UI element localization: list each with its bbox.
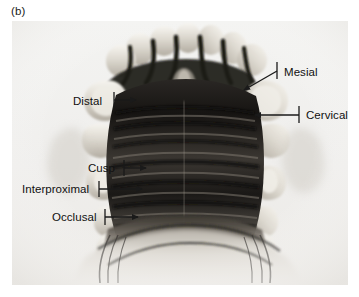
specimen-illustration xyxy=(12,21,348,285)
specimen-image-frame xyxy=(12,21,348,285)
callout-label-occlusal: Occlusal xyxy=(52,211,97,223)
callout-label-distal: Distal xyxy=(73,95,102,107)
callout-label-interproximal: Interproximal xyxy=(22,183,89,195)
panel-label: (b) xyxy=(11,4,25,18)
callout-label-cusp: Cusp xyxy=(88,162,115,174)
callout-label-mesial: Mesial xyxy=(284,66,318,78)
figure-panel-b: (b) xyxy=(0,0,359,297)
callout-label-cervical: Cervical xyxy=(306,109,348,121)
